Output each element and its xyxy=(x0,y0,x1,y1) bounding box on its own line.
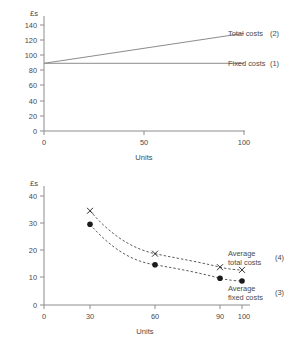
total-costs-ref: (2) xyxy=(270,29,279,38)
bottom-x-ticks xyxy=(44,305,242,309)
top-chart-svg: £s 140 120 100 80 60 40 20 0 0 50 xyxy=(0,0,292,172)
top-y-ticks xyxy=(40,25,44,131)
bottom-y-axis-label: £s xyxy=(30,179,38,188)
top-y-axis-label: £s xyxy=(30,9,38,18)
bottom-x-tick-100: 100 xyxy=(238,312,250,321)
top-x-axis-label: Units xyxy=(135,153,153,162)
average-fixed-costs-label-line1: Average xyxy=(228,284,255,293)
bottom-y-tick-20: 20 xyxy=(29,246,37,255)
top-x-tick-100: 100 xyxy=(238,138,250,147)
bottom-x-tick-90: 90 xyxy=(216,312,224,321)
average-total-costs-label-line2: total costs xyxy=(228,258,262,267)
bottom-y-tick-40: 40 xyxy=(29,192,37,201)
top-y-tick-60: 60 xyxy=(29,81,37,90)
bottom-x-tick-0: 0 xyxy=(42,312,46,321)
total-costs-line xyxy=(44,33,244,63)
total-fixed-costs-chart: £s 140 120 100 80 60 40 20 0 0 50 xyxy=(0,0,292,172)
average-fixed-costs-markers xyxy=(87,222,245,284)
bottom-y-tick-10: 10 xyxy=(29,273,37,282)
bottom-x-tick-30: 30 xyxy=(86,312,94,321)
top-y-tick-40: 40 xyxy=(29,97,37,106)
average-total-costs-ref: (4) xyxy=(275,253,284,262)
average-costs-chart: £s 40 30 20 10 0 0 30 60 90 100 xyxy=(0,172,292,357)
top-x-ticks xyxy=(44,131,244,135)
top-x-tick-50: 50 xyxy=(140,138,148,147)
top-y-tick-0: 0 xyxy=(33,127,37,136)
fixed-costs-label: Fixed costs xyxy=(228,59,266,68)
top-y-tick-100: 100 xyxy=(25,51,37,60)
bottom-y-ticks xyxy=(40,196,44,305)
average-total-costs-markers xyxy=(87,208,245,273)
top-y-tick-120: 120 xyxy=(25,36,37,45)
bottom-y-tick-30: 30 xyxy=(29,219,37,228)
average-fixed-costs-label-line2: fixed costs xyxy=(228,293,263,302)
top-y-tick-80: 80 xyxy=(29,66,37,75)
fixed-costs-ref: (1) xyxy=(270,59,279,68)
average-fixed-costs-ref: (3) xyxy=(275,288,284,297)
bottom-x-axis-label: Units xyxy=(136,327,154,336)
total-costs-label: Total costs xyxy=(228,29,263,38)
top-y-tick-20: 20 xyxy=(29,112,37,121)
bottom-y-tick-0: 0 xyxy=(33,301,37,310)
average-total-costs-label-line1: Average xyxy=(228,249,255,258)
bottom-chart-svg: £s 40 30 20 10 0 0 30 60 90 100 xyxy=(0,172,292,357)
top-y-tick-140: 140 xyxy=(25,21,37,30)
bottom-x-tick-60: 60 xyxy=(151,312,159,321)
average-total-costs-curve xyxy=(90,211,242,270)
top-x-tick-0: 0 xyxy=(42,138,46,147)
